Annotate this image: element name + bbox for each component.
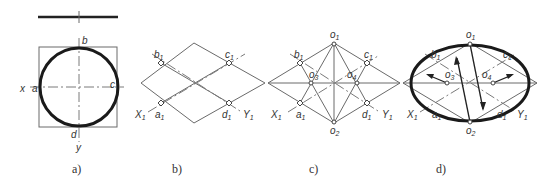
radius-arrow-o2 <box>457 58 470 122</box>
point-o2 <box>332 120 336 124</box>
arrow-head-icon <box>506 74 514 79</box>
panel-a: b a c d x y a) <box>19 11 124 176</box>
point-a1 <box>158 100 164 106</box>
label-X1-panel-b: X1 <box>134 109 146 121</box>
label-X1: X1 <box>406 109 418 121</box>
label-o1: o1 <box>330 29 340 41</box>
label-c1: c1 <box>225 49 234 61</box>
isometric-ellipse-construction-figure: b a c d x y a) b1 c1 a1 d1 Y1 b) <box>0 0 555 191</box>
caption-d: d) <box>436 162 446 176</box>
label-Y1: Y1 <box>517 109 528 121</box>
label-o3: o3 <box>445 69 455 81</box>
label-a1: a1 <box>296 109 306 121</box>
point-o3 <box>445 81 449 85</box>
panel-b: b1 c1 a1 d1 Y1 b) <box>141 43 265 176</box>
label-x: x <box>19 83 26 94</box>
label-c1: c1 <box>503 49 512 61</box>
label-o2: o2 <box>466 125 476 137</box>
caption-a: a) <box>72 162 81 176</box>
label-b: b <box>82 35 88 46</box>
label-a1: a1 <box>432 109 442 121</box>
label-X1: X1 <box>270 109 282 121</box>
point-o1 <box>468 42 472 46</box>
label-o3: o3 <box>309 69 319 81</box>
label-d1: d1 <box>222 109 232 121</box>
caption-b: b) <box>172 162 182 176</box>
point-o2 <box>468 120 472 124</box>
label-o4: o4 <box>482 69 492 81</box>
arrow-head-icon <box>426 74 434 79</box>
point-o1 <box>332 42 336 46</box>
label-a1: a1 <box>155 109 165 121</box>
label-o2: o2 <box>330 125 340 137</box>
label-b1: b1 <box>294 49 304 61</box>
label-d1: d1 <box>362 109 372 121</box>
point-o4 <box>491 81 495 85</box>
arrow-head-icon <box>480 102 486 111</box>
label-Y1: Y1 <box>243 109 254 121</box>
label-a: a <box>32 83 38 94</box>
arrow-head-icon <box>454 56 460 65</box>
label-c: c <box>110 79 115 90</box>
label-o1: o1 <box>466 29 476 41</box>
label-d1: d1 <box>497 109 507 121</box>
panel-d: o1 o2 o3 o4 b1 c1 a1 d1 Y1 X1 d) <box>403 29 537 176</box>
point-o3 <box>309 81 313 85</box>
label-b1: b1 <box>154 49 164 61</box>
label-Y1: Y1 <box>382 109 393 121</box>
label-y: y <box>75 142 82 153</box>
point-o4 <box>355 81 359 85</box>
panel-c: o1 o2 o3 o4 b1 c1 a1 d1 Y1 X1 c) <box>268 29 400 176</box>
caption-c: c) <box>309 162 318 176</box>
label-d: d <box>71 129 77 140</box>
label-c1: c1 <box>364 49 373 61</box>
